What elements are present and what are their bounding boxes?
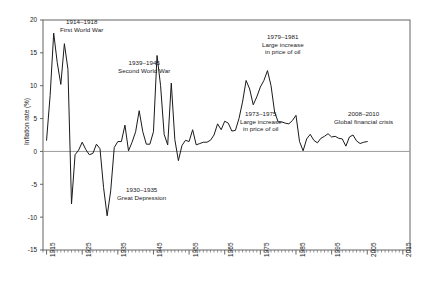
annotation-global-financial-crisis: 2008–2010Global financial crisis [334, 110, 393, 125]
y-tick-label: -5 [15, 181, 37, 188]
chart-plot-area [0, 0, 424, 293]
y-tick-label: 10 [15, 82, 37, 89]
plot-frame [43, 20, 410, 250]
annotation-line: Global financial crisis [334, 118, 393, 126]
annotation-line: Large increase [262, 41, 304, 49]
annotation-oil-1979: 1979–1981Large increasein price of oil [262, 33, 304, 56]
annotation-line: 1973–1975 [240, 110, 282, 118]
annotation-line: Large increase [240, 118, 282, 126]
x-tick-label: 1995 [334, 242, 341, 257]
annotation-line: 1914–1918 [60, 18, 103, 26]
x-tick-label: 1945 [156, 242, 163, 257]
x-tick-label: 1985 [299, 242, 306, 257]
inflation-series-line [47, 33, 368, 216]
annotation-line: in price of oil [262, 48, 304, 56]
y-tick-label: 0 [15, 148, 37, 155]
x-tick-label: 1935 [120, 242, 127, 257]
annotation-oil-1973: 1973–1975Large increasein price of oil [240, 110, 282, 133]
annotation-line: First World War [60, 26, 103, 34]
annotation-line: 1930–1935 [117, 186, 166, 194]
x-tick-label: 1955 [192, 242, 199, 257]
y-tick-label: -10 [15, 214, 37, 221]
x-tick-label: 1925 [85, 242, 92, 257]
x-tick-label: 1975 [263, 242, 270, 257]
annotation-line: Second World War [118, 67, 170, 75]
y-tick-label: 20 [15, 16, 37, 23]
x-tick-label: 2015 [405, 242, 412, 257]
y-tick-label: -15 [15, 246, 37, 253]
inflation-rate-chart: Inflation rate (%) 20151050-5-10-15 1915… [0, 0, 424, 293]
x-tick-label: 1965 [227, 242, 234, 257]
x-tick-label: 2005 [370, 242, 377, 257]
annotation-line: Great Depression [117, 194, 166, 202]
y-tick-label: 5 [15, 115, 37, 122]
annotation-line: 1939–1945 [118, 59, 170, 67]
annotation-line: in price of oil [240, 125, 282, 133]
y-tick-label: 15 [15, 49, 37, 56]
annotation-line: 1979–1981 [262, 33, 304, 41]
annotation-second-world-war: 1939–1945Second World War [118, 59, 170, 74]
annotation-first-world-war: 1914–1918First World War [60, 18, 103, 33]
x-tick-label: 1915 [49, 242, 56, 257]
annotation-great-depression: 1930–1935Great Depression [117, 186, 166, 201]
annotation-line: 2008–2010 [334, 110, 393, 118]
